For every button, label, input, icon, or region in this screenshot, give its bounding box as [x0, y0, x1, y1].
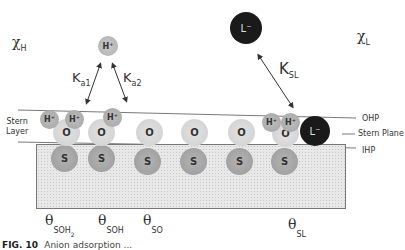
k-subscript: a1	[81, 79, 91, 88]
layer-label: Layer	[6, 127, 28, 137]
o-label: O	[97, 127, 106, 138]
o-label: O	[145, 127, 154, 138]
h-label: H⁺	[44, 115, 55, 124]
h-label: H⁺	[266, 118, 277, 127]
stern-label: Stern	[6, 117, 28, 127]
figure-number: FIG. 10	[2, 240, 38, 250]
theta-subscript: SO	[151, 226, 162, 235]
surface-h-atom: H⁺	[281, 113, 300, 132]
o-label: O	[62, 127, 71, 138]
ksl-label: KSL	[279, 60, 298, 80]
surface-h-atom: H⁺	[103, 108, 122, 127]
h-label: H⁺	[69, 115, 80, 124]
ohp-label: OHP	[362, 114, 379, 123]
ligand-label: L⁻	[310, 126, 321, 137]
surface-o-atom: O	[181, 119, 208, 146]
theta-so-label: θSO	[143, 212, 163, 231]
theta-soh2-label: θSOH2	[45, 212, 75, 232]
theta-subscript-2: 2	[71, 231, 75, 238]
theta-sl-label: θSL	[288, 216, 306, 235]
surface-s-atom: S	[88, 145, 115, 172]
stern-plane-label: Stern Plane	[358, 129, 404, 138]
h-label: H⁺	[285, 118, 296, 127]
o-label: O	[237, 127, 246, 138]
s-label: S	[281, 156, 288, 167]
theta-soh-label: θSOH	[98, 212, 124, 231]
ka2-label: Ka2	[123, 70, 142, 88]
stern-layer-label: Stern Layer	[6, 117, 28, 137]
s-label: S	[236, 156, 243, 167]
surface-h-atom: H⁺	[262, 113, 281, 132]
figure-caption: FIG. 10 Anion adsorption ...	[2, 240, 132, 250]
theta-subscript: SOH	[53, 226, 70, 235]
k-symbol: K	[123, 70, 132, 85]
theta-subscript: SL	[296, 230, 306, 239]
s-label: S	[61, 153, 68, 164]
surface-h-atom: H⁺	[65, 110, 84, 129]
surface-o-atom: O	[228, 119, 255, 146]
surface-h-atom: H⁺	[40, 110, 59, 129]
ihp-label: IHP	[362, 146, 375, 155]
surface-s-atom: S	[271, 148, 298, 175]
surface-s-atom: S	[226, 148, 253, 175]
s-label: S	[144, 156, 151, 167]
surface-o-atom: O	[136, 119, 163, 146]
surface-s-atom: S	[51, 145, 78, 172]
s-label: S	[190, 156, 197, 167]
surface-s-atom: S	[134, 148, 161, 175]
k-symbol: K	[72, 70, 81, 85]
k-subscript: a2	[132, 79, 142, 88]
k-subscript: SL	[289, 71, 299, 80]
k-symbol: K	[279, 60, 289, 78]
caption-text: Anion adsorption ...	[44, 240, 132, 250]
theta-subscript: SOH	[106, 226, 123, 235]
ka1-label: Ka1	[72, 70, 91, 88]
h-label: H⁺	[107, 113, 118, 122]
adsorbed-ligand: L⁻	[300, 116, 330, 146]
o-label: O	[190, 127, 199, 138]
s-label: S	[98, 153, 105, 164]
surface-s-atom: S	[180, 148, 207, 175]
